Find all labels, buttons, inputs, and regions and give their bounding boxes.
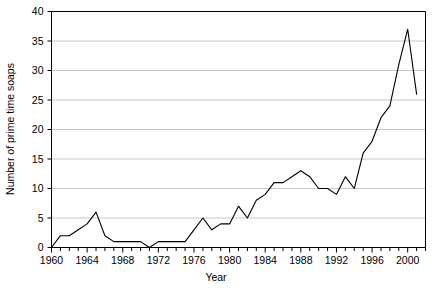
x-tick-label: 2000: [396, 254, 420, 266]
y-tick-label: 5: [38, 212, 44, 224]
y-tick-label: 40: [32, 5, 44, 17]
series-polyline: [52, 29, 417, 247]
y-tick-label: 15: [32, 153, 44, 165]
y-tick-label: 35: [32, 35, 44, 47]
x-tick-label: 1972: [147, 254, 171, 266]
y-tick-label: 10: [32, 182, 44, 194]
y-tick-label: 20: [32, 123, 44, 135]
x-tick-label: 1976: [182, 254, 206, 266]
x-tick-label: 1964: [75, 254, 99, 266]
y-tick-label: 0: [38, 241, 44, 253]
x-tick-label: 1960: [40, 254, 64, 266]
x-axis-ticks: [52, 248, 426, 253]
gridlines-group: [52, 12, 426, 219]
line-chart-plot: 0510152025303540 19601964196819721976198…: [0, 0, 432, 291]
x-tick-label: 1992: [325, 254, 349, 266]
x-tick-label: 1984: [254, 254, 278, 266]
x-axis-tick-labels: 1960196419681972197619801984198819921996…: [40, 254, 420, 266]
y-axis-tick-labels: 0510152025303540: [32, 5, 44, 253]
y-axis-ticks: [48, 12, 52, 248]
x-tick-label: 1988: [289, 254, 313, 266]
y-tick-label: 25: [32, 94, 44, 106]
x-tick-label: 1996: [360, 254, 384, 266]
chart-container: Number of prime time soaps 0510152025303…: [0, 0, 432, 291]
y-tick-label: 30: [32, 64, 44, 76]
x-tick-label: 1968: [111, 254, 135, 266]
x-tick-label: 1980: [218, 254, 242, 266]
x-axis-label: Year: [0, 271, 432, 283]
data-series-line: [52, 29, 417, 247]
